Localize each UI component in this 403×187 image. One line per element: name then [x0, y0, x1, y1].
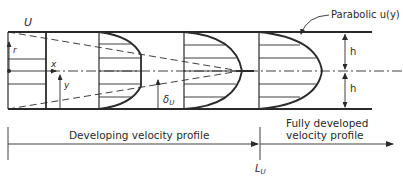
y-label: y — [63, 80, 70, 90]
r-label: r — [13, 45, 18, 55]
developing-profile-2 — [184, 32, 254, 109]
inlet-velocity-label: U — [24, 16, 32, 29]
inlet-uniform-profile — [7, 32, 46, 109]
fully-developed-profile — [259, 32, 322, 109]
entrance-flow-diagram: U r x y δU Parabolic u(y) h h Developing… — [0, 0, 403, 187]
developed-region-label-line2: velocity profile — [286, 129, 364, 141]
developing-region-label: Developing velocity profile — [69, 129, 209, 141]
boundary-layer-bottom — [8, 71, 240, 109]
h-label-top: h — [350, 46, 356, 57]
x-label: x — [50, 59, 57, 69]
developed-region-label-line1: Fully developed — [286, 117, 368, 129]
developing-profile-1 — [99, 32, 141, 109]
entrance-length-label: LU — [255, 163, 266, 176]
parabolic-callout-label: Parabolic u(y) — [331, 9, 400, 20]
h-label-bottom: h — [350, 83, 356, 94]
boundary-layer-label: δU — [163, 94, 174, 107]
